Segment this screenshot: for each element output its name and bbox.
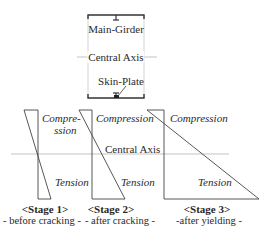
stage2-tension-label: Tension — [121, 176, 155, 188]
stage1-title: <Stage 1> — [22, 203, 68, 215]
stage2-subtitle: - after cracking - — [85, 215, 155, 227]
stage3-title: <Stage 3> — [184, 203, 230, 215]
stage2-title: <Stage 2> — [88, 203, 134, 215]
skin-plate-label: Skin-Plate — [98, 75, 144, 87]
stage3-tension-label: Tension — [198, 176, 232, 188]
stage3-compression-label: Compression — [170, 112, 228, 124]
stage1-subtitle: - before cracking - — [3, 215, 81, 227]
main-girder-label: Main-Girder — [88, 23, 144, 35]
stage2-compression-label: Compression — [96, 112, 154, 124]
stage1-compression-label-line2: ssion — [54, 124, 77, 136]
stage3-subtitle: -after yielding - — [176, 215, 242, 227]
stage1-tension-label: Tension — [55, 176, 89, 188]
stage1-compression-label-line1: Compre- — [42, 112, 81, 124]
stress-central-axis-label: Central Axis — [105, 143, 160, 155]
girder-central-axis-label: Central Axis — [87, 51, 144, 63]
